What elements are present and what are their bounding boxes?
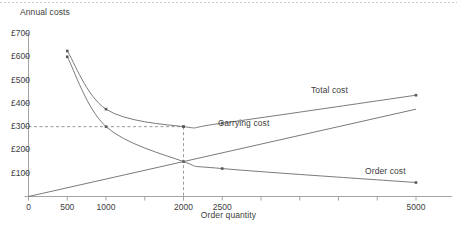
x-axis-tick-label: 2000 <box>164 202 204 212</box>
data-point-marker <box>66 55 69 58</box>
annotations-group <box>29 127 184 197</box>
data-point-marker <box>221 167 224 170</box>
x-axis-tick-label: 5000 <box>396 202 436 212</box>
x-axis-tick-label: 1000 <box>86 202 126 212</box>
x-axis-tick-label: 2500 <box>202 202 242 212</box>
chart-figure: Annual costs Order quantity £100£200£300… <box>0 0 457 228</box>
data-point-marker <box>415 94 418 97</box>
y-axis-tick-label: £400 <box>0 98 30 108</box>
series-label-order-cost: Order cost <box>365 166 406 176</box>
series-line-total-cost <box>67 51 416 128</box>
series-label-carrying-cost: Carrying cost <box>218 118 269 128</box>
data-point-marker <box>182 125 185 128</box>
x-axis-tick-label: 0 <box>9 202 49 212</box>
plot-area <box>0 0 457 228</box>
y-axis-tick-label: £700 <box>0 28 30 38</box>
data-point-marker <box>105 125 108 128</box>
y-axis-tick-label: £200 <box>0 144 30 154</box>
data-point-marker <box>415 181 418 184</box>
y-axis-tick-label: £600 <box>0 51 30 61</box>
series-label-total-cost: Total cost <box>311 85 348 95</box>
x-axis-tick-label: 500 <box>47 202 87 212</box>
y-axis-tick-label: £500 <box>0 75 30 85</box>
y-axis-tick-label: £100 <box>0 168 30 178</box>
y-axis-tick-label: £300 <box>0 121 30 131</box>
data-point-marker <box>66 50 69 53</box>
data-point-marker <box>105 108 108 111</box>
